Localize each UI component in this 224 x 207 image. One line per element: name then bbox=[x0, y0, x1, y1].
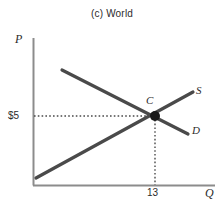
y-axis-tick-label-price: $5 bbox=[8, 110, 19, 121]
supply-curve-label: S bbox=[196, 84, 202, 96]
equilibrium-point-label: C bbox=[146, 94, 153, 106]
x-axis-label: Q bbox=[205, 186, 214, 201]
demand-curve bbox=[62, 70, 188, 134]
equilibrium-point-marker bbox=[150, 111, 160, 121]
y-axis-label: P bbox=[15, 32, 22, 47]
supply-curve bbox=[36, 92, 193, 178]
x-axis-tick-label-quantity: 13 bbox=[147, 187, 158, 198]
demand-curve-label: D bbox=[192, 124, 200, 136]
chart-canvas bbox=[0, 0, 224, 207]
world-market-supply-demand-figure: (c) World P Q $5 13 C S D bbox=[0, 0, 224, 207]
